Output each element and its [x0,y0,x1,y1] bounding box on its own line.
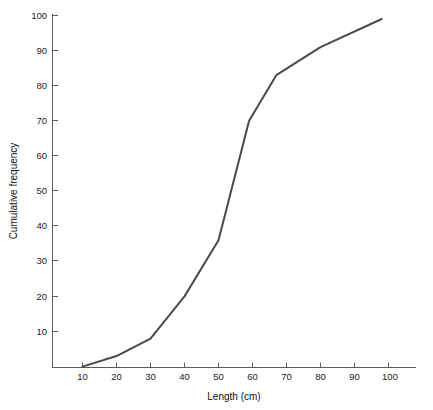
y-tick-label: 20 [36,291,47,302]
y-tick-label: 10 [36,326,47,337]
x-tick-label: 70 [281,371,292,382]
chart-canvas: 100 90 80 70 60 50 40 30 20 10 10 20 30 … [0,0,433,410]
y-tick-label: 40 [36,220,47,231]
y-tick-label: 30 [36,255,47,266]
y-tick-label: 100 [31,10,47,21]
y-tick-label: 80 [36,80,47,91]
y-axis-title: Cumulative frequency [8,143,19,240]
cumulative-frequency-line [83,19,382,367]
y-tick-label: 60 [36,150,47,161]
x-tick-label: 80 [315,371,326,382]
x-tick-label: 90 [349,371,360,382]
x-tick-label: 50 [213,371,224,382]
y-tick-label: 50 [36,185,47,196]
y-tick-labels: 100 90 80 70 60 50 40 30 20 10 [31,10,47,337]
y-tick-marks [53,16,59,332]
x-tick-label: 10 [77,371,88,382]
x-tick-labels: 10 20 30 40 50 60 70 80 90 100 [77,371,398,382]
x-tick-label: 60 [247,371,258,382]
x-axis-title: Length (cm) [207,391,260,402]
x-tick-label: 20 [111,371,122,382]
x-tick-label: 30 [145,371,156,382]
x-tick-label: 40 [179,371,190,382]
cumulative-frequency-chart: 100 90 80 70 60 50 40 30 20 10 10 20 30 … [0,0,433,410]
y-tick-label: 90 [36,45,47,56]
y-tick-label: 70 [36,115,47,126]
x-tick-label: 100 [382,371,398,382]
